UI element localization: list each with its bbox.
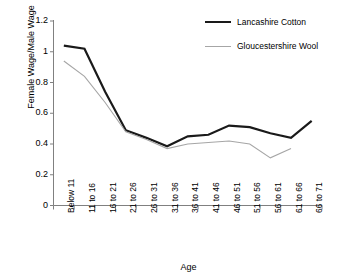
x-axis-tick-label: 56 to 61 <box>274 182 283 213</box>
x-axis-tick-label: 66 to 71 <box>315 182 324 213</box>
x-axis-tick-label: 61 to 66 <box>295 182 304 213</box>
x-axis-tick-label: 46 to 51 <box>233 182 242 213</box>
x-axis-tick-label: 51 to 56 <box>253 182 262 213</box>
x-axis-tick-label: 36 to 41 <box>191 182 200 213</box>
legend-label: Gloucestershire Wool <box>237 41 318 51</box>
x-axis-tick-label: 31 to 36 <box>171 182 180 213</box>
x-axis-tick-label: 21 to 26 <box>129 182 138 213</box>
x-axis-title-text: Age <box>180 262 196 272</box>
legend-item: Lancashire Cotton <box>205 14 341 30</box>
x-axis-tick-label: 41 to 46 <box>212 182 221 213</box>
x-axis-tick-label: 11 to 16 <box>88 182 97 212</box>
x-axis-tick-label: 26 to 31 <box>150 182 159 213</box>
legend-line-swatch <box>205 46 231 47</box>
line-chart: Female Wage/Male Wage 00.20.40.60.811.2 … <box>0 0 341 277</box>
legend-item: Gloucestershire Wool <box>205 38 341 54</box>
x-axis-title: Age <box>0 262 341 272</box>
x-axis-tick-label: Below 11 <box>67 178 76 212</box>
x-axis-tick-label: 16 to 21 <box>109 182 118 213</box>
legend-line-swatch <box>205 21 231 23</box>
chart-legend: Lancashire CottonGloucestershire Wool <box>205 14 341 62</box>
legend-label: Lancashire Cotton <box>237 17 306 27</box>
